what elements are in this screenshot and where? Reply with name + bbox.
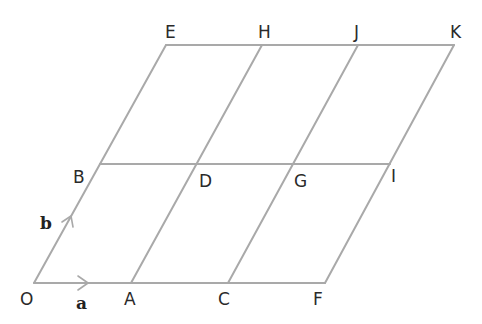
vector-label-b: b (40, 213, 52, 233)
label-O: O (20, 289, 33, 309)
label-H: H (258, 22, 271, 42)
label-I: I (391, 166, 396, 186)
label-F: F (313, 289, 323, 309)
label-J: J (353, 22, 359, 42)
label-A: A (124, 289, 136, 309)
parallelogram-grid-diagram: O A C F B D G I E H J K a b (0, 0, 482, 324)
vector-label-a: a (76, 293, 87, 313)
label-K: K (450, 22, 462, 42)
label-D: D (199, 171, 212, 191)
label-E: E (165, 22, 176, 42)
label-C: C (218, 289, 230, 309)
label-B: B (73, 167, 85, 187)
label-G: G (294, 171, 307, 191)
